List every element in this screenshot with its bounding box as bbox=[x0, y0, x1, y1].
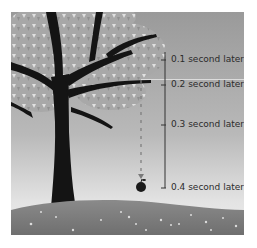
time-label-0-1: 0.1 second later bbox=[171, 54, 244, 64]
time-label-0-4: 0.4 second later bbox=[171, 182, 244, 192]
foliage bbox=[11, 12, 166, 112]
time-label-0-3: 0.3 second later bbox=[171, 119, 244, 129]
falling-apple-diagram: 0.1 second later 0.2 second later 0.3 se… bbox=[11, 12, 244, 235]
time-label-0-2: 0.2 second later bbox=[171, 79, 244, 89]
